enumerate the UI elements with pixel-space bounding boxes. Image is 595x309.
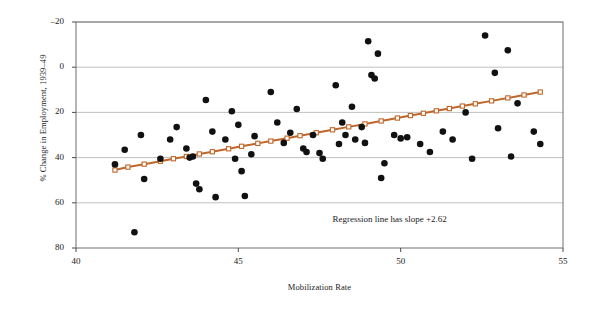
regression-marker <box>473 102 477 106</box>
data-point <box>235 122 242 129</box>
regression-marker <box>408 113 412 117</box>
data-point <box>193 180 200 187</box>
data-point <box>232 155 239 162</box>
regression-marker <box>538 90 542 94</box>
data-point <box>404 134 411 141</box>
data-point <box>190 153 197 160</box>
data-point <box>352 136 359 143</box>
data-point <box>274 119 281 126</box>
data-point <box>248 151 255 158</box>
regression-marker <box>506 96 510 100</box>
data-point <box>397 135 404 142</box>
data-point <box>173 124 180 131</box>
data-point <box>303 149 310 156</box>
regression-marker <box>347 125 351 129</box>
regression-marker <box>210 150 214 154</box>
regression-marker <box>269 139 273 143</box>
data-point <box>157 155 164 162</box>
data-point <box>339 119 346 126</box>
regression-marker <box>171 157 175 161</box>
regression-marker <box>330 128 334 132</box>
data-point <box>319 155 326 162</box>
regression-marker <box>489 99 493 103</box>
data-point <box>242 193 249 200</box>
data-point <box>378 175 385 182</box>
data-point <box>203 97 210 104</box>
data-point <box>381 160 388 167</box>
data-point <box>375 50 382 57</box>
regression-marker <box>226 147 230 151</box>
regression-marker <box>434 109 438 113</box>
data-point <box>427 149 434 156</box>
regression-marker <box>460 104 464 108</box>
data-point <box>131 229 138 236</box>
regression-marker <box>421 111 425 115</box>
regression-marker <box>113 168 117 172</box>
regression-marker <box>447 106 451 110</box>
data-point <box>332 82 339 89</box>
data-point <box>391 132 398 139</box>
data-point <box>209 128 216 135</box>
regression-marker <box>395 116 399 120</box>
regression-marker <box>197 152 201 156</box>
regression-marker <box>522 93 526 97</box>
data-point <box>505 47 512 54</box>
data-point <box>112 161 119 168</box>
plot-canvas <box>0 0 595 309</box>
data-point <box>336 141 343 148</box>
data-point <box>358 124 365 131</box>
regression-line <box>113 90 543 172</box>
data-point <box>469 155 476 162</box>
frame-rect <box>76 22 563 248</box>
axis-ticks <box>72 22 563 252</box>
data-point <box>196 186 203 193</box>
regression-annotation: Regression line has slope +2.62 <box>332 214 446 224</box>
regression-marker <box>298 134 302 138</box>
data-point <box>229 108 236 115</box>
data-point <box>365 38 372 45</box>
data-point <box>183 145 190 152</box>
regression-marker <box>285 136 289 140</box>
data-point <box>280 140 287 147</box>
regression-marker <box>126 165 130 169</box>
data-point <box>462 109 469 116</box>
data-point <box>362 140 369 147</box>
data-point <box>222 136 229 143</box>
regression-marker <box>239 144 243 148</box>
regression-marker <box>142 162 146 166</box>
data-point <box>371 75 378 82</box>
data-point <box>316 150 323 157</box>
data-point <box>508 153 515 160</box>
data-point <box>530 128 537 135</box>
scatter-points <box>112 32 544 235</box>
data-point <box>167 136 174 143</box>
data-point <box>417 141 424 148</box>
data-point <box>293 106 300 113</box>
data-point <box>121 146 128 153</box>
data-point <box>495 125 502 132</box>
data-point <box>492 70 499 77</box>
data-point <box>514 100 521 107</box>
gridlines <box>76 22 563 203</box>
data-point <box>310 132 317 139</box>
data-point <box>251 133 258 140</box>
regression-marker <box>379 119 383 123</box>
data-point <box>287 129 294 136</box>
data-point <box>138 132 145 139</box>
data-point <box>141 176 148 183</box>
data-point <box>482 32 489 39</box>
data-point <box>212 194 219 201</box>
data-point <box>349 103 356 110</box>
data-point <box>268 89 275 96</box>
data-point <box>449 136 456 143</box>
data-point <box>537 141 544 148</box>
plot-frame <box>76 22 563 248</box>
data-point <box>440 128 447 135</box>
scatter-plot-figure: % Change in Employment, 1939–49 Mobiliza… <box>0 0 595 309</box>
data-point <box>342 132 349 139</box>
regression-marker <box>256 141 260 145</box>
data-point <box>238 168 245 175</box>
